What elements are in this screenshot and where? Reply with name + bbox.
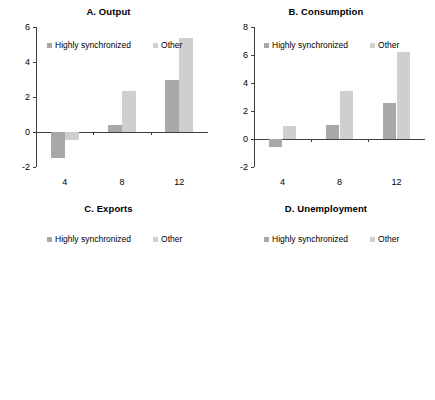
legend: Highly synchronizedOther: [47, 235, 182, 244]
chart-panel-2: B. Consumption-2024684812Highly synchron…: [217, 0, 435, 197]
legend: Highly synchronizedOther: [47, 41, 182, 50]
legend-item: Other: [370, 235, 399, 244]
legend-label: Highly synchronized: [55, 41, 131, 50]
x-tick: [151, 132, 152, 135]
bar: [51, 132, 65, 158]
chart-grid: A. Output-202464812Highly synchronizedOt…: [0, 0, 435, 400]
y-tick: [33, 27, 36, 28]
bar: [283, 126, 297, 139]
y-tick: [251, 83, 254, 84]
bar: [179, 38, 193, 132]
bar: [165, 80, 179, 133]
panel-title: C. Exports: [0, 203, 217, 214]
legend-label: Highly synchronized: [55, 235, 131, 244]
y-tick-label: 2: [220, 107, 248, 116]
bar: [397, 52, 411, 139]
y-tick-label: 4: [220, 79, 248, 88]
y-tick-label: 0: [2, 128, 30, 137]
y-tick: [33, 62, 36, 63]
legend-item: Other: [153, 235, 182, 244]
legend: Highly synchronizedOther: [264, 41, 399, 50]
legend-swatch-icon: [264, 237, 269, 242]
y-tick: [33, 97, 36, 98]
y-tick-label: -2: [220, 163, 248, 172]
x-tick: [368, 139, 369, 142]
y-tick-label: 0: [220, 135, 248, 144]
bar: [340, 91, 354, 139]
legend-swatch-icon: [370, 43, 375, 48]
y-tick-label: 8: [220, 23, 248, 32]
x-tick-label: 4: [263, 178, 303, 187]
x-tick: [311, 139, 312, 142]
chart-panel-1: A. Output-202464812Highly synchronizedOt…: [0, 0, 217, 197]
y-tick-label: 2: [2, 93, 30, 102]
legend-item: Highly synchronized: [47, 41, 131, 50]
x-tick-label: 8: [320, 178, 360, 187]
y-tick: [251, 167, 254, 168]
legend-label: Other: [378, 235, 399, 244]
legend-label: Other: [378, 41, 399, 50]
x-tick-label: 12: [377, 178, 417, 187]
legend-swatch-icon: [370, 237, 375, 242]
plot-area: -2024684812Highly synchronizedOther: [254, 27, 425, 167]
legend-swatch-icon: [264, 43, 269, 48]
y-tick: [251, 55, 254, 56]
x-tick: [93, 132, 94, 135]
legend-item: Other: [370, 41, 399, 50]
chart-panel-3: C. Exports-40481216204812Highly synchron…: [0, 197, 217, 400]
legend-item: Highly synchronized: [264, 235, 348, 244]
bar: [383, 103, 397, 139]
legend-swatch-icon: [47, 237, 52, 242]
legend: Highly synchronizedOther: [264, 235, 399, 244]
y-tick: [251, 111, 254, 112]
legend-label: Other: [161, 235, 182, 244]
bar: [122, 91, 136, 132]
x-tick-label: 12: [159, 178, 199, 187]
panel-title: B. Consumption: [217, 6, 435, 17]
legend-item: Highly synchronized: [47, 235, 131, 244]
y-tick-label: 6: [220, 51, 248, 60]
chart-panel-4: D. Unemployment00.511.522.54812Highly sy…: [217, 197, 435, 400]
legend-label: Highly synchronized: [272, 41, 348, 50]
legend-swatch-icon: [153, 237, 158, 242]
x-tick-label: 4: [45, 178, 85, 187]
bar: [269, 139, 283, 147]
panel-title: A. Output: [0, 6, 217, 17]
legend-item: Highly synchronized: [264, 41, 348, 50]
y-tick: [33, 132, 36, 133]
y-axis-line: [36, 27, 37, 167]
legend-label: Highly synchronized: [272, 235, 348, 244]
bar: [326, 125, 340, 139]
y-tick: [251, 27, 254, 28]
y-tick-label: 6: [2, 23, 30, 32]
legend-item: Other: [153, 41, 182, 50]
y-tick: [251, 139, 254, 140]
y-tick: [33, 167, 36, 168]
plot-area: -202464812Highly synchronizedOther: [36, 27, 208, 167]
y-tick-label: -2: [2, 163, 30, 172]
panel-title: D. Unemployment: [217, 203, 435, 214]
y-axis-line: [254, 27, 255, 167]
bar: [65, 132, 79, 140]
x-tick-label: 8: [102, 178, 142, 187]
bar: [108, 125, 122, 132]
legend-swatch-icon: [153, 43, 158, 48]
legend-label: Other: [161, 41, 182, 50]
y-tick-label: 4: [2, 58, 30, 67]
legend-swatch-icon: [47, 43, 52, 48]
